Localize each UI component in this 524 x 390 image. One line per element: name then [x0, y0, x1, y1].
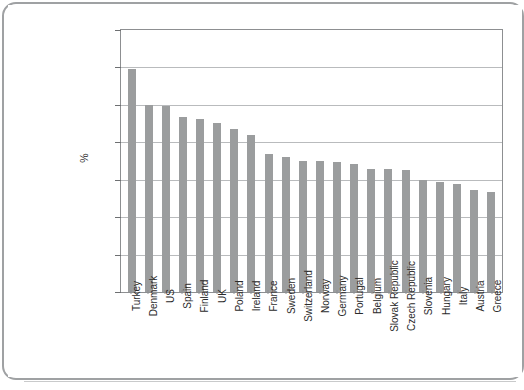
- bar: [179, 117, 187, 292]
- x-axis-tick-label: Greece: [492, 280, 503, 313]
- bar: [333, 162, 341, 292]
- x-axis-label-slot: Sweden: [282, 294, 290, 386]
- x-axis-tick-label: Spain: [182, 283, 193, 309]
- x-axis-label-slot: Germany: [333, 294, 341, 386]
- bar: [436, 182, 444, 292]
- x-axis-labels: TurkeyDenmarkUSSpainFinlandUKPolandIrela…: [120, 294, 503, 386]
- x-axis-label-slot: France: [264, 294, 272, 386]
- x-axis-tick-label: Austria: [475, 280, 486, 311]
- bar: [247, 135, 255, 292]
- x-axis-tick-label: Finland: [199, 280, 210, 313]
- bar: [162, 106, 170, 292]
- x-axis-tick-label: Slovenia: [423, 277, 434, 315]
- x-axis-tick-label: US: [165, 289, 176, 303]
- x-axis-label-slot: Belgium: [368, 294, 376, 386]
- x-axis-label-slot: Norway: [316, 294, 324, 386]
- x-axis-label-slot: Italy: [454, 294, 462, 386]
- bar: [196, 119, 204, 292]
- x-axis-tick-label: Switzerland: [303, 270, 314, 322]
- bar: [316, 161, 324, 292]
- x-axis-tick-label: Czech Republic: [406, 261, 417, 331]
- y-axis-tick: [115, 292, 121, 293]
- bar-series: [121, 30, 502, 292]
- bar: [487, 192, 495, 292]
- bar: [282, 157, 290, 292]
- x-axis-label-slot: Poland: [230, 294, 238, 386]
- x-axis-label-slot: Portugal: [350, 294, 358, 386]
- x-axis-label-slot: Finland: [195, 294, 203, 386]
- x-axis-tick-label: France: [268, 280, 279, 311]
- bar: [265, 154, 273, 292]
- bar: [145, 105, 153, 292]
- plot-area: [120, 29, 503, 293]
- x-axis-label-slot: Switzerland: [299, 294, 307, 386]
- x-axis-tick-label: Turkey: [131, 281, 142, 311]
- x-axis-label-slot: Ireland: [247, 294, 255, 386]
- x-axis-label-slot: UK: [213, 294, 221, 386]
- x-axis-label-slot: Slovenia: [419, 294, 427, 386]
- x-axis-tick-label: Belgium: [372, 278, 383, 314]
- bar: [350, 164, 358, 292]
- x-axis-tick-label: UK: [217, 289, 228, 303]
- x-axis-tick-label: Ireland: [251, 281, 262, 312]
- x-axis-tick-label: Germany: [337, 275, 348, 316]
- x-axis-label-slot: Czech Republic: [402, 294, 410, 386]
- x-axis-tick-label: Hungary: [441, 277, 452, 315]
- bar: [470, 190, 478, 292]
- bar: [213, 123, 221, 292]
- bar: [367, 169, 375, 293]
- x-axis-label-slot: Spain: [178, 294, 186, 386]
- y-axis-title: %: [78, 153, 90, 162]
- x-axis-tick-label: Poland: [234, 280, 245, 311]
- x-axis-label-slot: Slovak Republic: [385, 294, 393, 386]
- x-axis-label-slot: Hungary: [437, 294, 445, 386]
- bar: [230, 129, 238, 292]
- x-axis-tick-label: Portugal: [354, 277, 365, 314]
- x-axis-tick-label: Italy: [458, 287, 469, 305]
- x-axis-label-slot: US: [161, 294, 169, 386]
- x-axis-label-slot: Denmark: [144, 294, 152, 386]
- x-axis-tick-label: Denmark: [148, 276, 159, 317]
- x-axis-label-slot: Turkey: [127, 294, 135, 386]
- bar: [419, 180, 427, 292]
- x-axis-tick-label: Slovak Republic: [389, 260, 400, 332]
- x-axis-tick-label: Sweden: [286, 278, 297, 314]
- bar: [453, 184, 461, 292]
- x-axis-label-slot: Austria: [471, 294, 479, 386]
- x-axis-label-slot: Greece: [488, 294, 496, 386]
- bar: [128, 69, 136, 292]
- x-axis-tick-label: Norway: [320, 279, 331, 313]
